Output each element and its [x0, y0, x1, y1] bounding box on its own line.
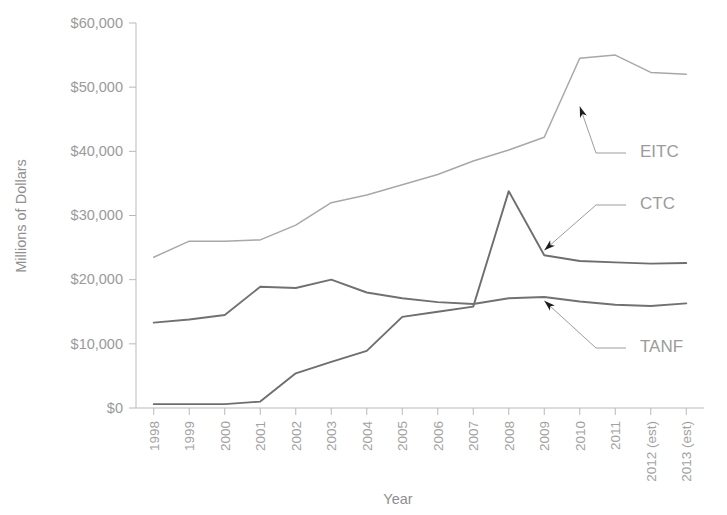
x-axis-tick-label: 2011 [608, 421, 623, 450]
annotation-ctc: CTC [542, 194, 675, 252]
series-line-eitc [154, 55, 687, 257]
x-axis-tick-label: 2000 [218, 421, 233, 451]
y-axis-tick-label: $40,000 [71, 143, 123, 159]
x-axis-tick-label: 1999 [182, 421, 197, 451]
y-axis-tick-label: $0 [107, 400, 123, 416]
annotation-leader-line [544, 301, 626, 348]
annotation-leader-line [544, 205, 626, 250]
annotation-leader-line [580, 106, 626, 153]
x-axis-tick-label: 2012 (est) [644, 421, 659, 482]
annotation-label: TANF [640, 337, 683, 356]
y-axis: $60,000$50,000$40,000$30,000$20,000$10,0… [71, 15, 136, 416]
x-axis-tick-label: 2003 [324, 421, 339, 451]
x-axis-tick-label: 2002 [289, 421, 304, 451]
y-axis-tick-label: $10,000 [71, 336, 123, 352]
y-axis-tick-label: $60,000 [71, 15, 123, 31]
x-axis-title: Year [383, 491, 412, 507]
y-axis-tick-label: $20,000 [71, 271, 123, 287]
series-line-tanf [154, 280, 687, 323]
x-axis-tick-label: 2005 [395, 421, 410, 451]
series-lines [154, 55, 687, 404]
y-axis-title: Millions of Dollars [13, 159, 29, 273]
x-axis-tick-label: 2013 (est) [679, 421, 694, 482]
annotation-eitc: EITC [576, 105, 678, 161]
line-chart: $60,000$50,000$40,000$30,000$20,000$10,0… [0, 0, 727, 515]
x-axis: 1998199920002001200220032004200520062007… [136, 408, 704, 482]
x-axis-tick-label: 2009 [537, 421, 552, 451]
x-axis-tick-label: 2007 [466, 421, 481, 451]
x-axis-tick-label: 2008 [502, 421, 517, 451]
chart-container: $60,000$50,000$40,000$30,000$20,000$10,0… [0, 0, 727, 515]
annotation-tanf: TANF [542, 298, 683, 356]
annotation-arrowhead [576, 105, 586, 118]
x-axis-tick-label: 2010 [573, 421, 588, 451]
x-axis-tick-label: 2001 [253, 421, 268, 451]
y-axis-tick-label: $50,000 [71, 79, 123, 95]
x-axis-tick-label: 1998 [147, 421, 162, 451]
annotation-label: EITC [640, 142, 679, 161]
y-axis-tick-label: $30,000 [71, 207, 123, 223]
series-annotations: EITCCTCTANF [542, 105, 683, 356]
series-line-ctc [154, 191, 687, 404]
x-axis-tick-label: 2004 [360, 421, 375, 452]
annotation-label: CTC [640, 194, 675, 213]
x-axis-tick-label: 2006 [431, 421, 446, 451]
